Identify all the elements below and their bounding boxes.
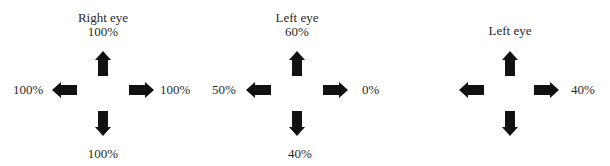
down-value: 100% <box>88 147 118 161</box>
arrow-down-icon <box>497 111 523 137</box>
right-value: 40% <box>571 83 595 97</box>
arrow-left-icon <box>458 77 484 103</box>
arrow-up-icon <box>497 50 523 76</box>
right-value: 100% <box>160 83 190 97</box>
right-value: 0% <box>362 83 379 97</box>
panel-title: Left eye <box>276 11 319 25</box>
arrow-down-icon <box>284 111 310 137</box>
up-value: 60% <box>285 25 309 39</box>
arrow-left-icon <box>51 77 77 103</box>
left-value: 50% <box>212 83 236 97</box>
arrow-up-icon <box>284 50 310 76</box>
arrow-down-icon <box>90 111 116 137</box>
panel-left-eye: Left eye 60% 50% 0% 40% <box>200 0 400 166</box>
arrow-left-icon <box>245 77 271 103</box>
arrow-right-icon <box>323 77 349 103</box>
panel-right-eye: Right eye 100% 100% 100% 100% <box>0 0 200 166</box>
arrow-right-icon <box>129 77 155 103</box>
up-value: 100% <box>88 25 118 39</box>
left-value: 100% <box>13 83 43 97</box>
down-value: 40% <box>288 147 312 161</box>
panel-title: Right eye <box>78 11 128 25</box>
arrow-right-icon <box>534 77 560 103</box>
panel-title: Left eye <box>489 24 532 38</box>
arrow-up-icon <box>90 50 116 76</box>
panel-left-eye-2: Left eye 40% <box>410 0 610 166</box>
